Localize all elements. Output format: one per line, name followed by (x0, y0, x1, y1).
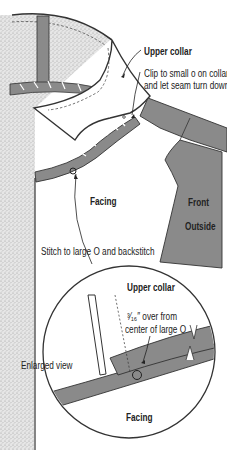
label-enlarged-upper-collar: Upper collar (127, 282, 175, 293)
label-measure-line2: center of large O (125, 324, 186, 335)
label-upper-collar: Upper collar (144, 46, 192, 57)
label-outside: Outside (185, 221, 216, 232)
label-clip-line2: and let seam turn down (144, 80, 227, 91)
label-front: Front (188, 197, 209, 208)
label-clip-line1: Clip to small o on collar (144, 68, 227, 79)
label-measure-line1: ³⁄₁₆″ over from (127, 311, 177, 322)
label-facing: Facing (90, 196, 116, 207)
label-enlarged-facing: Facing (126, 412, 152, 423)
label-enlarged-view: Enlarged view (21, 360, 73, 371)
label-stitch: Stitch to large O and backstitch (41, 246, 154, 257)
back-seam-strip (37, 16, 49, 88)
